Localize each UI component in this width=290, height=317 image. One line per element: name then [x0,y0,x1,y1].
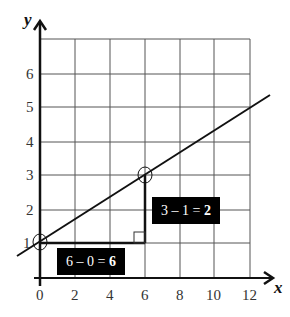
svg-text:10: 10 [206,287,221,303]
svg-text:4: 4 [106,287,114,303]
svg-text:6 – 0 = 6: 6 – 0 = 6 [66,254,116,269]
svg-text:5: 5 [26,99,34,115]
rise-annotation: 3 – 1 = 2 [152,197,220,224]
svg-text:3: 3 [26,167,34,183]
y-tick-labels: 1 2 3 4 5 6 [23,66,34,251]
run-annotation: 6 – 0 = 6 [57,248,125,275]
svg-text:12: 12 [242,287,257,303]
svg-text:4: 4 [26,134,34,150]
svg-text:2: 2 [71,287,79,303]
svg-text:0: 0 [36,287,44,303]
svg-text:6: 6 [141,287,149,303]
y-axis-label: y [22,10,32,29]
svg-text:2: 2 [26,202,34,218]
slope-chart: y x 0 2 4 6 8 10 12 1 2 3 4 5 6 6 – 0 = … [0,0,290,317]
y-axis [34,21,46,286]
x-axis-label: x [273,278,283,297]
x-tick-labels: 0 2 4 6 8 10 12 [36,287,257,303]
svg-text:6: 6 [26,66,34,82]
right-angle-marker [134,232,145,243]
svg-text:3 – 1 = 2: 3 – 1 = 2 [161,203,211,218]
svg-text:8: 8 [176,287,184,303]
